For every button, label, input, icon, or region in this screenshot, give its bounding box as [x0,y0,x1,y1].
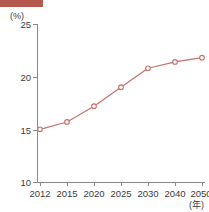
series-line [40,58,202,130]
chart-container: (%) 25 20 15 10 2012 2015 2020 2025 2030… [0,0,209,212]
data-point-2020 [92,104,97,109]
data-point-2015 [65,120,70,125]
data-series-svg [0,0,209,212]
data-point-2030 [146,66,151,71]
data-point-2012 [38,127,43,132]
data-point-2050 [200,55,205,60]
series-markers [38,55,205,131]
data-point-2040 [173,60,178,65]
data-point-2025 [119,85,124,90]
